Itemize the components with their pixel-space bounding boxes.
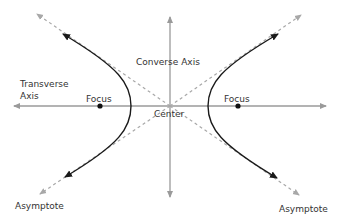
- transverse-axis-label-line2: Axis: [20, 91, 39, 101]
- left-branch-lower: [65, 106, 131, 177]
- focus-right-point: [235, 103, 240, 108]
- right-branch-lower: [208, 106, 277, 178]
- asymptote-line-1b: [170, 106, 299, 195]
- transverse-axis-label-line1: Transverse: [19, 79, 69, 89]
- focus-left-point: [97, 103, 102, 108]
- center-label: Center: [154, 109, 185, 119]
- focus-left-label: Focus: [86, 94, 112, 104]
- asymptote-left-label: Asymptote: [15, 201, 64, 211]
- asymptote-right-label: Asymptote: [279, 204, 328, 214]
- focus-right-label: Focus: [224, 94, 250, 104]
- hyperbola-diagram: Transverse Axis Converse Axis Center Foc…: [0, 0, 339, 224]
- converse-axis-label: Converse Axis: [136, 57, 200, 67]
